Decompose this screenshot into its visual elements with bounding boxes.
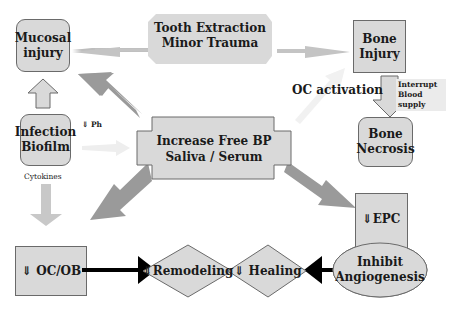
angiogenesis-line2: Angiogenesis — [333, 270, 427, 285]
angiogenesis-line1: Inhibit — [333, 255, 427, 270]
angiogenesis-node: Inhibit Angiogenesis — [333, 255, 427, 285]
